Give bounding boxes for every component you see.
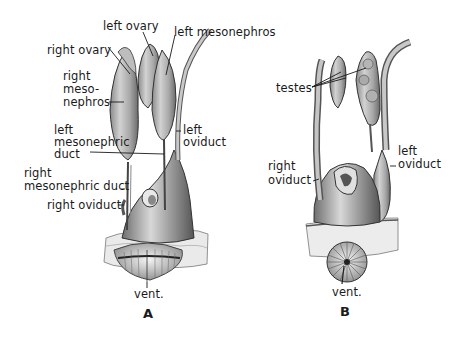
label-right-ovary: right ovary xyxy=(47,44,111,57)
panel-letter-a: A xyxy=(143,306,153,321)
label-right-oviduct-b-line1: right xyxy=(268,160,296,173)
label-right-mesonephric-duct-line2: mesonephric duct xyxy=(24,180,129,193)
label-testes: testes xyxy=(276,82,312,95)
label-left-oviduct-a-line2: oviduct xyxy=(183,136,226,149)
label-vent-a: vent. xyxy=(134,288,164,301)
reproductive-tract-figure: left ovary left mesonephros right ovary … xyxy=(0,0,462,339)
label-left-mesonephros: left mesonephros xyxy=(174,26,276,39)
panel-letter-b: B xyxy=(340,304,350,319)
label-right-oviduct-b-line2: oviduct xyxy=(268,174,311,187)
panel-b-drawing xyxy=(306,42,410,284)
panel-a-drawing xyxy=(104,30,210,282)
label-right-oviduct-a: right oviduct xyxy=(47,199,121,212)
label-right-mesonephros-line3: nephros xyxy=(63,96,110,109)
label-left-mesonephric-duct-line3: duct xyxy=(54,148,80,161)
label-vent-b: vent. xyxy=(332,286,362,299)
label-left-oviduct-b-line2: oviduct xyxy=(398,158,441,171)
label-left-ovary: left ovary xyxy=(103,20,159,33)
